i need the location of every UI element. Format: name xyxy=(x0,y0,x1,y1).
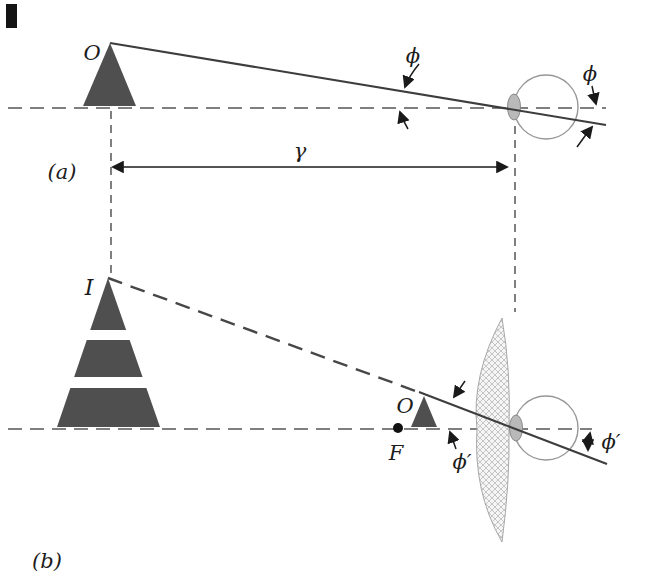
angle-arrow-a-right-lower xyxy=(577,127,592,147)
scan-artifact-mark xyxy=(6,4,17,28)
eye-b xyxy=(514,396,578,460)
cornea-a xyxy=(508,94,521,120)
image-triangle-body xyxy=(57,278,160,427)
ray-b xyxy=(419,392,607,464)
label-angle-a-left: ϕ xyxy=(406,44,420,68)
label-angle-b-left: ϕ′ xyxy=(452,450,471,474)
eye-a xyxy=(514,75,578,139)
label-distance-gamma: γ xyxy=(294,139,307,163)
angle-arrow-a-right-upper xyxy=(592,86,596,104)
label-angle-a-right: ϕ xyxy=(583,62,597,86)
optics-diagram: O ϕ ϕ γ (a) I O F xyxy=(0,0,657,582)
magnifier-lens xyxy=(476,318,509,542)
ray-a xyxy=(110,43,606,125)
image-triangle-b xyxy=(45,278,175,427)
ray-pointer-arrow-b xyxy=(454,381,465,397)
angle-arrow-a-left-lower xyxy=(400,112,408,129)
focal-point-dot xyxy=(393,423,403,433)
label-panel-b: (b) xyxy=(32,549,62,573)
label-object-a: O xyxy=(83,41,100,65)
object-triangle-b xyxy=(411,396,437,427)
image-triangle-gap-1 xyxy=(45,330,175,340)
angle-arrow-b-right xyxy=(588,433,590,450)
angle-arrow-b-left xyxy=(450,432,456,449)
label-image-b: I xyxy=(84,275,95,300)
image-triangle-gap-2 xyxy=(45,377,175,388)
label-object-b: O xyxy=(396,394,413,418)
label-focal-point: F xyxy=(388,441,405,465)
label-angle-b-right: ϕ′ xyxy=(601,430,620,454)
label-panel-a: (a) xyxy=(48,160,77,184)
figure-canvas: O ϕ ϕ γ (a) I O F xyxy=(0,0,657,582)
